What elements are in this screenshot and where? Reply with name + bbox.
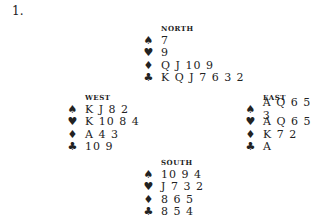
hearts-row: ♥9 bbox=[143, 47, 245, 60]
hearts-row: ♥K 10 8 4 bbox=[67, 116, 140, 129]
east-hand: EAST ♠A Q 6 5 3 ♥A Q 6 5 ♦K 7 2 ♣A bbox=[245, 93, 323, 153]
spade-icon: ♠ bbox=[67, 103, 79, 116]
spades-row: ♠10 9 4 bbox=[143, 168, 204, 181]
heart-icon: ♥ bbox=[143, 180, 155, 193]
hearts-cards: 9 bbox=[161, 46, 169, 59]
diamonds-cards: A 4 3 bbox=[85, 128, 119, 141]
clubs-cards: K Q J 7 6 3 2 bbox=[161, 71, 245, 84]
hearts-cards: J 7 3 2 bbox=[161, 180, 204, 193]
hand-label: NORTH bbox=[161, 24, 245, 33]
diamonds-cards: Q J 10 9 bbox=[161, 59, 214, 72]
clubs-cards: 10 9 bbox=[85, 140, 114, 153]
clubs-row: ♣A bbox=[245, 141, 323, 154]
clubs-cards: 8 5 4 bbox=[161, 205, 194, 218]
diamond-icon: ♦ bbox=[143, 193, 155, 206]
diamonds-cards: K 7 2 bbox=[263, 128, 297, 141]
diamond-icon: ♦ bbox=[143, 59, 155, 72]
spades-row: ♠K J 8 2 bbox=[67, 103, 140, 116]
diamond-icon: ♦ bbox=[245, 128, 257, 141]
heart-icon: ♥ bbox=[143, 46, 155, 59]
spades-row: ♠A Q 6 5 3 bbox=[245, 103, 323, 116]
diamonds-row: ♦A 4 3 bbox=[67, 128, 140, 141]
club-icon: ♣ bbox=[143, 205, 155, 218]
diamonds-row: ♦8 6 5 bbox=[143, 193, 204, 206]
hearts-row: ♥A Q 6 5 bbox=[245, 116, 323, 129]
hearts-row: ♥J 7 3 2 bbox=[143, 181, 204, 194]
diamonds-cards: 8 6 5 bbox=[161, 193, 194, 206]
spades-cards: K J 8 2 bbox=[85, 103, 129, 116]
clubs-row: ♣8 5 4 bbox=[143, 206, 204, 219]
diamonds-row: ♦Q J 10 9 bbox=[143, 59, 245, 72]
spade-icon: ♠ bbox=[143, 168, 155, 181]
clubs-row: ♣10 9 bbox=[67, 141, 140, 154]
problem-number: 1. bbox=[12, 4, 23, 18]
clubs-cards: A bbox=[263, 140, 272, 153]
club-icon: ♣ bbox=[245, 140, 257, 153]
spades-cards: 7 bbox=[161, 34, 169, 47]
club-icon: ♣ bbox=[143, 71, 155, 84]
diamond-icon: ♦ bbox=[67, 128, 79, 141]
clubs-row: ♣K Q J 7 6 3 2 bbox=[143, 72, 245, 85]
heart-icon: ♥ bbox=[67, 115, 79, 128]
hearts-cards: K 10 8 4 bbox=[85, 115, 140, 128]
south-hand: SOUTH ♠10 9 4 ♥J 7 3 2 ♦8 6 5 ♣8 5 4 bbox=[143, 158, 204, 218]
hand-label: WEST bbox=[85, 93, 140, 102]
diamonds-row: ♦K 7 2 bbox=[245, 128, 323, 141]
hearts-cards: A Q 6 5 bbox=[263, 115, 311, 128]
club-icon: ♣ bbox=[67, 140, 79, 153]
spades-row: ♠7 bbox=[143, 34, 245, 47]
spade-icon: ♠ bbox=[143, 34, 155, 47]
west-hand: WEST ♠K J 8 2 ♥K 10 8 4 ♦A 4 3 ♣10 9 bbox=[67, 93, 140, 153]
heart-icon: ♥ bbox=[245, 115, 257, 128]
north-hand: NORTH ♠7 ♥9 ♦Q J 10 9 ♣K Q J 7 6 3 2 bbox=[143, 24, 245, 84]
spades-cards: 10 9 4 bbox=[161, 168, 202, 181]
spade-icon: ♠ bbox=[245, 103, 257, 116]
hand-label: SOUTH bbox=[161, 158, 204, 167]
